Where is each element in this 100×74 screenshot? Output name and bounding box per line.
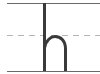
letter-h-glyph	[45, 3, 66, 71]
letter-h-arch	[45, 37, 66, 72]
letter-guide-svg	[0, 0, 100, 74]
handwriting-practice-card: h	[0, 0, 100, 74]
